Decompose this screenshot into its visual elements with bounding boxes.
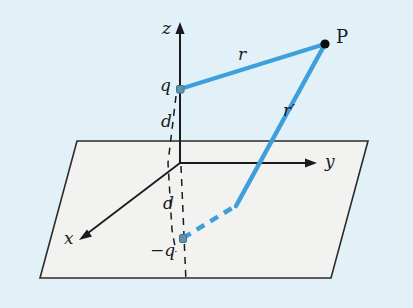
distance-label-d-lower: d — [163, 195, 174, 212]
ray-label-r: r — [238, 46, 246, 63]
conducting-plane — [40, 141, 368, 278]
diagram-canvas — [0, 0, 413, 308]
image-charge-marker — [180, 235, 187, 243]
distance-label-d-upper: d — [161, 113, 172, 130]
image-charge-label-negative-q: −q — [150, 242, 175, 259]
ray-label-r-prime: r′ — [283, 102, 295, 119]
axis-label-z: z — [162, 20, 171, 37]
point-p-marker — [320, 39, 329, 48]
z-axis-arrowhead — [175, 22, 184, 34]
axis-label-y: y — [325, 153, 335, 170]
image-charge-diagram: z y x q −q P d d r r′ — [0, 0, 413, 308]
charge-q-marker — [177, 86, 185, 94]
charge-label-q: q — [160, 77, 171, 94]
axis-label-x: x — [64, 230, 74, 247]
field-point-label-p: P — [336, 28, 348, 46]
